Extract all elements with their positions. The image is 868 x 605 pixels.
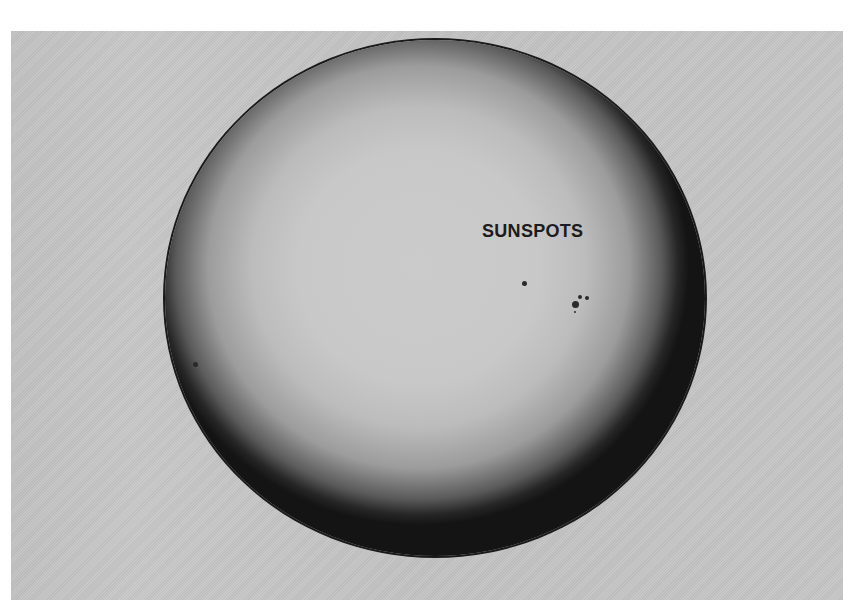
- sunspot: [578, 295, 582, 299]
- solar-disk: [165, 40, 705, 556]
- sunspots-label: SUNSPOTS: [482, 221, 583, 242]
- sunspot: [585, 296, 589, 300]
- sunspot: [522, 281, 527, 286]
- sunspot: [193, 362, 198, 367]
- sunspot: [572, 301, 579, 308]
